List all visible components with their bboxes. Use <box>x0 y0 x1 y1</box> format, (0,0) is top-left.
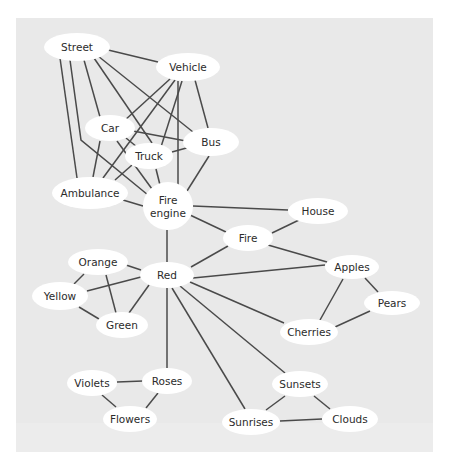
node-street: Street <box>44 33 110 61</box>
node-label: Truck <box>134 150 164 162</box>
edge-red-cherries <box>190 282 284 323</box>
node-car: Car <box>85 115 135 141</box>
node-sunsets: Sunsets <box>272 371 328 397</box>
edge-orange-yellow <box>74 274 84 284</box>
node-orange: Orange <box>68 249 128 275</box>
node-label: Sunrises <box>229 416 274 428</box>
node-cherries: Cherries <box>280 319 338 345</box>
node-red: Red <box>140 262 194 288</box>
node-label: Flowers <box>110 413 150 425</box>
edge-violets-flowers <box>102 395 116 407</box>
node-pears: Pears <box>364 291 420 315</box>
node-label: Violets <box>74 377 109 389</box>
edge-roses-violets <box>117 381 143 382</box>
node-label: Green <box>106 319 138 331</box>
edge-ambulance-fire-engine <box>123 200 143 206</box>
edge-fire-apples <box>268 245 327 262</box>
node-label: Pears <box>378 297 407 309</box>
node-label: Orange <box>79 256 118 268</box>
node-label: Apples <box>334 261 369 273</box>
node-ambulance: Ambulance <box>52 177 128 209</box>
edge-sunrises-clouds <box>280 419 322 421</box>
edge-street-vehicle <box>104 49 158 62</box>
edge-sunsets-clouds <box>314 396 330 409</box>
node-label: Fire <box>239 232 258 244</box>
node-roses: Roses <box>142 368 192 394</box>
edge-orange-green <box>106 275 116 313</box>
edge-fire-engine-house <box>193 206 288 210</box>
node-label: Cherries <box>287 326 331 338</box>
node-apples: Apples <box>325 255 379 279</box>
node-label: Sunsets <box>279 378 321 390</box>
edge-vehicle-car <box>124 79 170 121</box>
edge-truck-ambulance <box>115 165 132 180</box>
edge-red-apples <box>193 265 325 278</box>
edge-apples-cherries <box>320 279 343 320</box>
edge-red-orange <box>126 265 141 270</box>
edge-pears-cherries <box>335 311 370 327</box>
node-label: Fire <box>159 194 178 206</box>
node-label: Roses <box>152 375 183 387</box>
node-label: Vehicle <box>169 61 207 73</box>
edge-apples-pears <box>365 278 378 292</box>
node-label: Yellow <box>43 290 77 302</box>
node-label: Street <box>61 41 93 53</box>
edge-fire-engine-fire <box>190 215 226 232</box>
node-house: House <box>288 198 348 224</box>
semantic-network-diagram: StreetVehicleCarBusTruckAmbulanceFireeng… <box>0 0 453 465</box>
node-fire-engine: Fireengine <box>143 182 193 230</box>
node-label: Bus <box>201 136 220 148</box>
node-label: House <box>302 205 335 217</box>
edge-vehicle-bus <box>195 80 208 128</box>
node-fire: Fire <box>223 225 273 251</box>
node-sunrises: Sunrises <box>222 409 280 435</box>
edge-car-ambulance <box>93 141 100 177</box>
node-label: Ambulance <box>61 187 120 199</box>
node-bus: Bus <box>183 128 239 156</box>
edge-street-car <box>84 60 100 117</box>
edges-layer <box>60 49 378 421</box>
node-label: Clouds <box>332 413 367 425</box>
node-label: Car <box>101 122 120 134</box>
node-violets: Violets <box>67 370 117 396</box>
edge-house-fire <box>272 220 299 233</box>
edge-roses-flowers <box>146 393 158 408</box>
node-truck: Truck <box>125 143 173 169</box>
node-label: engine <box>150 207 186 219</box>
node-clouds: Clouds <box>322 406 378 432</box>
nodes-layer: StreetVehicleCarBusTruckAmbulanceFireeng… <box>32 33 420 435</box>
node-vehicle: Vehicle <box>156 53 220 81</box>
edge-bus-fire-engine <box>187 156 209 191</box>
edge-sunsets-sunrises <box>266 396 285 410</box>
edge-yellow-green <box>79 307 99 319</box>
edge-red-green <box>129 285 149 313</box>
node-flowers: Flowers <box>103 406 157 432</box>
edge-red-sunsets <box>180 286 285 373</box>
edge-street-ambulance <box>60 58 77 178</box>
node-label: Red <box>157 269 177 281</box>
node-yellow: Yellow <box>32 282 88 310</box>
edge-red-yellow <box>87 277 141 291</box>
node-green: Green <box>96 312 148 338</box>
edge-truck-fire-engine <box>156 169 160 185</box>
edge-fire-red <box>191 246 228 267</box>
